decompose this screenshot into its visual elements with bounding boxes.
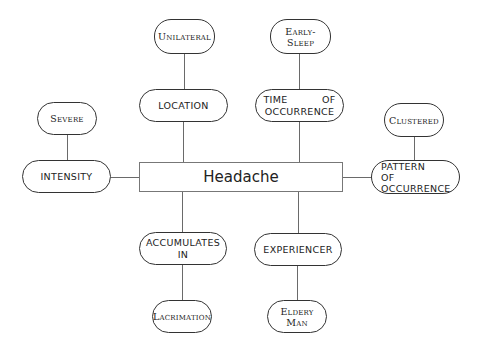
role-node-pattern-of-occurrence: PATTERN OF OCCURRENCE bbox=[371, 160, 460, 194]
role-location-label: LOCATION bbox=[158, 100, 208, 112]
connector-center-pattern bbox=[343, 177, 371, 178]
frame-diagram: Headache Severe INTENSITY Unilateral LOC… bbox=[0, 0, 482, 353]
value-node-severe: Severe bbox=[37, 102, 97, 135]
value-lacrimation-label: Lacrimation bbox=[153, 311, 211, 322]
role-node-location: LOCATION bbox=[139, 89, 228, 122]
role-experiencer-label: EXPERIENCER bbox=[263, 244, 332, 256]
role-intensity-label: INTENSITY bbox=[41, 171, 93, 183]
role-time-line2: OCCURRENCE bbox=[265, 106, 335, 118]
connector-center-experiencer bbox=[298, 192, 299, 233]
role-pattern-line2: OF bbox=[381, 172, 395, 183]
role-pattern-line1: PATTERN bbox=[381, 161, 425, 172]
role-accumulates-line1: ACCUMULATES bbox=[146, 237, 220, 249]
value-node-early-sleep: Early-Sleep bbox=[270, 19, 331, 54]
role-node-accumulates-in: ACCUMULATES IN bbox=[139, 232, 227, 265]
center-concept-label: Headache bbox=[203, 168, 278, 186]
role-node-intensity: INTENSITY bbox=[22, 160, 111, 193]
role-node-experiencer: EXPERIENCER bbox=[254, 233, 342, 266]
value-node-eldery-man: Eldery Man bbox=[267, 300, 327, 333]
connector-clustered-pattern bbox=[414, 137, 415, 160]
value-eldery-man-label: Eldery Man bbox=[270, 306, 324, 328]
connector-intensity-center bbox=[111, 177, 139, 178]
connector-severe-intensity bbox=[67, 135, 68, 160]
role-pattern-line3: OCCURRENCE bbox=[381, 183, 451, 194]
value-severe-label: Severe bbox=[50, 113, 83, 124]
connector-experiencer-elderyman bbox=[297, 266, 298, 300]
value-clustered-label: Clustered bbox=[389, 115, 439, 126]
value-node-unilateral: Unilateral bbox=[154, 19, 215, 54]
role-accumulates-line2: IN bbox=[178, 249, 189, 261]
role-time-line1: TIME OF bbox=[264, 94, 336, 106]
role-time-word-of: OF bbox=[322, 94, 336, 106]
connector-unilateral-location bbox=[184, 54, 185, 89]
connector-location-center bbox=[183, 122, 184, 162]
value-node-lacrimation: Lacrimation bbox=[152, 300, 212, 333]
connector-accumulates-lacrimation bbox=[182, 265, 183, 300]
role-time-word-time: TIME bbox=[264, 94, 288, 106]
connector-time-center bbox=[299, 122, 300, 162]
role-node-time-of-occurrence: TIME OF OCCURRENCE bbox=[255, 89, 344, 122]
connector-center-accumulates bbox=[182, 192, 183, 232]
center-concept-box: Headache bbox=[139, 162, 343, 192]
connector-earlysleep-time bbox=[299, 54, 300, 89]
value-unilateral-label: Unilateral bbox=[158, 31, 211, 42]
value-early-sleep-label: Early-Sleep bbox=[273, 26, 328, 48]
value-node-clustered: Clustered bbox=[384, 103, 444, 137]
